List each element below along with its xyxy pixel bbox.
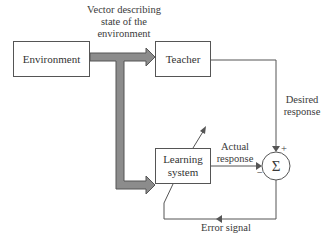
vector-label-line1: Vector describing (82, 4, 166, 16)
vector-label: Vector describing state of the environme… (82, 4, 166, 40)
vector-label-line3: environment (82, 28, 166, 40)
actual-response-label: Actual response (212, 141, 258, 165)
adjustment-arrowhead-icon (200, 126, 206, 134)
actual-label-line2: response (212, 153, 258, 165)
teacher-block: Teacher (155, 41, 211, 77)
state-vector-arrow (90, 48, 155, 194)
desired-response-label: Desired response (278, 94, 326, 118)
adjustment-arrow-line (193, 130, 204, 148)
desired-label-line1: Desired (278, 94, 326, 106)
learning-system-label-line2: system (168, 166, 199, 179)
error-signal-label: Error signal (196, 222, 256, 234)
desired-response-line (210, 60, 276, 148)
minus-sign: − (255, 167, 265, 179)
plus-sign: + (279, 143, 289, 155)
error-signal-line (164, 180, 276, 219)
learning-system-block: Learning system (155, 148, 211, 184)
environment-block: Environment (13, 41, 90, 77)
learning-system-label-line1: Learning (163, 153, 203, 166)
environment-label: Environment (23, 53, 80, 66)
teacher-label: Teacher (166, 53, 201, 66)
actual-label-line1: Actual (212, 141, 258, 153)
desired-label-line2: response (278, 106, 326, 118)
vector-label-line2: state of the (82, 16, 166, 28)
sigma-symbol: Σ (266, 157, 286, 175)
